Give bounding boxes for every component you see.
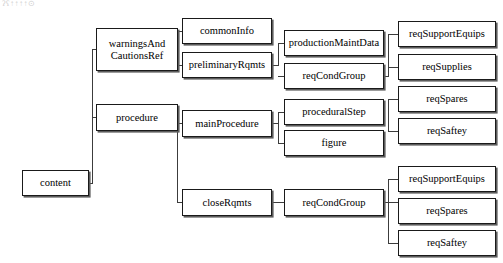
connector-line	[384, 179, 398, 203]
node-box-reqSpares-2[interactable]: reqSpares	[398, 198, 496, 224]
node-label-reqSaftey-2: reqSaftey	[427, 237, 467, 249]
node-box-procedure[interactable]: procedure	[96, 104, 178, 131]
connector-line	[272, 43, 284, 65]
node-box-mainProcedure[interactable]: mainProcedure	[182, 110, 272, 137]
node-label-procedure: procedure	[116, 112, 158, 124]
node-box-warningsAndCautionsRef[interactable]: warningsAnd CautionsRef	[96, 28, 178, 71]
node-label-preliminaryRqmts: preliminaryRqmts	[189, 59, 265, 71]
node-label-reqCondGroup-1: reqCondGroup	[303, 70, 366, 82]
node-label-commonInfo: commonInfo	[200, 25, 254, 37]
connector-line	[384, 34, 398, 76]
node-label-reqSupportEquips-1: reqSupportEquips	[409, 28, 485, 40]
node-box-reqSaftey-2[interactable]: reqSaftey	[398, 230, 496, 256]
node-label-closeRqmts: closeRqmts	[203, 197, 252, 209]
node-box-preliminaryRqmts[interactable]: preliminaryRqmts	[182, 52, 272, 78]
node-box-reqSupplies[interactable]: reqSupplies	[398, 54, 496, 80]
node-label-reqCondGroup-2: reqCondGroup	[303, 197, 366, 209]
tree-diagram-canvas: ʔʕ↑↑↑↑⊙ contentwarningsAnd CautionsRefpr…	[0, 0, 503, 263]
scan-artifact-text: ʔʕ↑↑↑↑⊙	[2, 0, 36, 8]
node-label-warningsAndCautionsRef: warningsAnd CautionsRef	[109, 38, 166, 62]
node-box-reqCondGroup-2[interactable]: reqCondGroup	[284, 189, 384, 216]
node-label-reqSupportEquips-2: reqSupportEquips	[409, 173, 485, 185]
node-label-content: content	[40, 177, 71, 189]
node-label-productionMaintData: productionMaintData	[289, 37, 379, 49]
connector-line	[89, 50, 96, 184]
node-box-reqSupportEquips-2[interactable]: reqSupportEquips	[398, 166, 496, 192]
node-box-closeRqmts[interactable]: closeRqmts	[182, 189, 272, 216]
node-box-reqSpares-1[interactable]: reqSpares	[398, 86, 496, 112]
node-label-mainProcedure: mainProcedure	[195, 118, 259, 130]
node-box-reqSaftey-1[interactable]: reqSaftey	[398, 118, 496, 144]
node-box-content[interactable]: content	[22, 170, 89, 196]
node-label-proceduralStep: proceduralStep	[302, 106, 366, 118]
connector-line	[388, 203, 398, 244]
node-label-reqSaftey-1: reqSaftey	[427, 125, 467, 137]
node-label-reqSupplies: reqSupplies	[422, 61, 472, 73]
node-label-reqSpares-2: reqSpares	[426, 205, 467, 217]
connector-line	[272, 112, 284, 124]
node-box-reqCondGroup-1[interactable]: reqCondGroup	[284, 63, 384, 89]
node-label-figure: figure	[321, 137, 346, 149]
node-box-commonInfo[interactable]: commonInfo	[182, 18, 272, 44]
node-box-figure[interactable]: figure	[284, 130, 384, 156]
node-label-reqSpares-1: reqSpares	[426, 93, 467, 105]
node-box-reqSupportEquips-1[interactable]: reqSupportEquips	[398, 21, 496, 47]
node-box-proceduralStep[interactable]: proceduralStep	[284, 99, 384, 125]
connector-line	[388, 99, 398, 131]
node-box-productionMaintData[interactable]: productionMaintData	[284, 30, 384, 56]
